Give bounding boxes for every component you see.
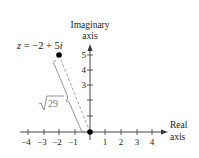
point-z-label-i: i xyxy=(60,40,63,51)
y-tick-label: 5 xyxy=(82,50,87,60)
y-tick-label: 3 xyxy=(82,80,87,90)
y-tick-labels: 3 4 5 xyxy=(82,50,87,90)
complex-plane-diagram: −4 −3 −2 −1 1 2 3 4 3 4 5 Imaginary axis… xyxy=(0,0,199,158)
x-tick-label: 4 xyxy=(150,137,155,147)
real-axis-arrow-icon xyxy=(161,130,168,135)
real-axis-label-line1: Real xyxy=(170,120,188,130)
y-tick-label: 4 xyxy=(82,65,87,75)
modulus-radicand: 29 xyxy=(48,98,58,109)
point-z-label: z = −2 + 5i xyxy=(16,40,63,51)
x-tick-label: 2 xyxy=(119,137,124,147)
imaginary-axis-title: Imaginary axis xyxy=(70,20,109,41)
real-axis-label-line2: axis xyxy=(170,132,186,142)
imaginary-axis-arrow-icon xyxy=(88,44,93,51)
point-z-label-body: = −2 + 5 xyxy=(21,40,60,51)
x-tick-label: −3 xyxy=(37,137,47,147)
point-origin xyxy=(87,129,93,135)
real-axis-title: Real axis xyxy=(170,120,188,142)
x-tick-label: 1 xyxy=(103,137,108,147)
point-z xyxy=(56,52,62,58)
imaginary-axis-label-line1: Imaginary xyxy=(70,20,109,30)
x-tick-labels: −4 −3 −2 −1 1 2 3 4 xyxy=(21,137,155,147)
x-tick-label: −2 xyxy=(52,137,62,147)
imaginary-axis-label-line2: axis xyxy=(82,31,98,41)
complex-plane-svg: −4 −3 −2 −1 1 2 3 4 3 4 5 Imaginary axis… xyxy=(0,0,199,158)
x-tick-label: −1 xyxy=(68,137,78,147)
modulus-label: 29 xyxy=(39,96,64,110)
x-tick-label: −4 xyxy=(21,137,31,147)
x-tick-label: 3 xyxy=(135,137,140,147)
